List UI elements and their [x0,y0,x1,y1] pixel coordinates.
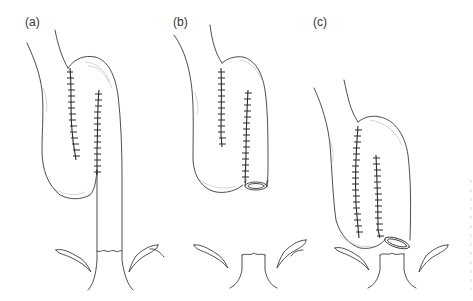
surgical-illustration [0,0,473,301]
panel-c-drawing [291,80,448,288]
panel-b-drawing [150,25,306,288]
panel-a-drawing [27,30,158,290]
